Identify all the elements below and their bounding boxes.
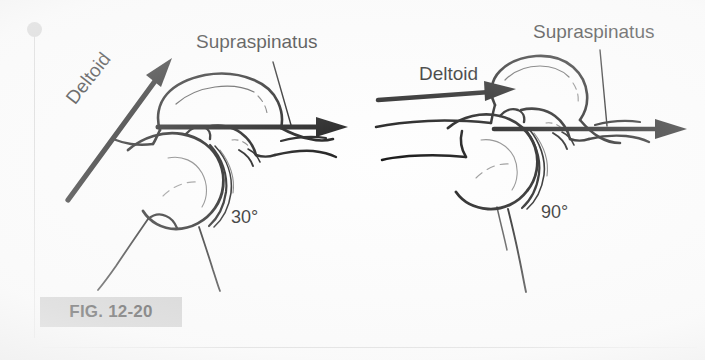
right-angle-label: 90° (541, 203, 568, 221)
figure-caption-text: FIG. 12-20 (69, 302, 152, 322)
page-bottom-rule (42, 347, 697, 348)
right-deltoid-force-arrow (378, 81, 516, 101)
left-panel-drawing (68, 58, 348, 291)
right-deltoid-label: Deltoid (419, 64, 478, 83)
figure-caption-band: FIG. 12-20 (40, 297, 182, 327)
left-supraspinatus-label: Supraspinatus (196, 32, 317, 51)
right-panel-drawing (376, 50, 687, 292)
right-supraspinatus-leader-line (600, 50, 607, 126)
right-supraspinatus-label: Supraspinatus (533, 22, 654, 41)
left-angle-label: 30° (231, 208, 258, 226)
figure-page: Supraspinatus Deltoid 30° Supraspinatus … (0, 0, 705, 360)
